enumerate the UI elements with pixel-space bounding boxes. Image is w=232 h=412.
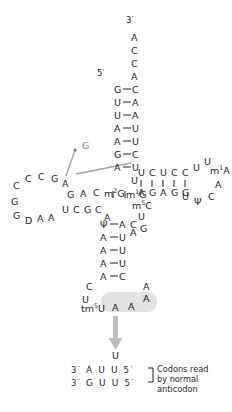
t-stem-top-base: C (171, 168, 178, 178)
t-loop-base: U (182, 192, 189, 202)
d-stem-bottom-base: G (84, 205, 91, 215)
acceptor-pair-left: G (114, 150, 121, 160)
d-loop-base: G (51, 174, 58, 184)
junction-base-u: U (131, 176, 138, 186)
anticodon-base: A (112, 303, 119, 313)
anticodon-loop-base: A (143, 294, 150, 304)
t-loop-base-m1a: m1A (210, 165, 230, 176)
anticodon-pair-left: A (100, 272, 107, 282)
codon-row-1-3prime: 3′ (71, 365, 82, 375)
down-arrow (109, 316, 123, 350)
d-stem-top-base: C (93, 188, 100, 198)
codon-caption-line: Codons read (157, 364, 208, 374)
acceptor-pair-right: C (132, 150, 139, 160)
acceptor-pair-left: U (114, 98, 121, 108)
d-loop-base: G (11, 197, 18, 207)
arrow-product-base: U (112, 351, 119, 361)
acceptor-pair-right: C (132, 85, 139, 95)
codon-row-1: 3′ A U U 5′ (71, 366, 134, 375)
anticodon-stem-extra: C (130, 220, 137, 230)
acceptor-pair-right: U (132, 137, 139, 147)
variable-loop-base-m5c: m5C (132, 200, 152, 211)
d-loop-base: C (25, 174, 32, 184)
d-stem-top-base: A (80, 189, 87, 199)
acceptor-pair-left: A (114, 124, 121, 134)
t-stem-top-base: U (160, 168, 167, 178)
acceptor-pair-left: U (114, 111, 121, 121)
codon-row-1-5prime: 5′ (124, 365, 135, 375)
d-loop-base: A (48, 213, 55, 223)
d-stem-bottom-base: C (73, 205, 80, 215)
acceptor-tail-base: C (131, 46, 138, 56)
codon-row-2-5prime: 5′ (124, 378, 135, 388)
anticodon-pair-right: U (119, 246, 126, 256)
t-loop-base: A (215, 180, 222, 190)
anticodon-pair-left: A (100, 259, 107, 269)
codon-row-2-3prime: 3′ (71, 378, 82, 388)
label-5prime-end: 5′ (97, 69, 104, 79)
codon-row-2: 3′ G U U 5′ (71, 379, 135, 388)
codon-caption-line: anticodon (157, 384, 198, 394)
t-stem-top-base: C (149, 168, 156, 178)
codon-caption-line: by normal (157, 374, 198, 384)
mutation-callout-label: G (82, 141, 89, 151)
d-loop-inner-base: G (67, 190, 74, 200)
acceptor-pair-right: U (132, 124, 139, 134)
t-stem-top-base: C (182, 168, 189, 178)
anticodon-wobble-base-tm5u: tm5U (81, 303, 105, 314)
codon-row-1-base: U (111, 365, 119, 375)
variable-loop-base: G (140, 224, 147, 234)
d-loop-base: C (13, 181, 20, 191)
d-stem-bottom-base: U (62, 205, 69, 215)
codon-row-2-base: U (99, 378, 107, 388)
t-loop-base: U (193, 163, 200, 173)
acceptor-pair-left: A (114, 137, 121, 147)
label-3prime-end: 3′ (126, 16, 133, 26)
anticodon-loop-base: C (86, 282, 93, 292)
codon-row-2-base: U (112, 378, 120, 388)
t-loop-base: Ψ (194, 197, 201, 207)
codon-row-1-base: A (86, 365, 94, 375)
d-loop-base: A (62, 179, 69, 189)
d-loop-base: C (38, 172, 45, 182)
acceptor-pair-right: A (132, 111, 139, 121)
acceptor-pair-left: G (114, 85, 121, 95)
anticodon-pair-left: A (100, 246, 107, 256)
acceptor-tail-base: A (131, 72, 138, 82)
anticodon-pair-left: A (100, 233, 107, 243)
anticodon-loop-base: A (143, 282, 150, 292)
codon-row-1-base: U (98, 365, 106, 375)
anticodon-pair-left: Ψ (100, 220, 107, 230)
d-loop-base: D (25, 216, 32, 226)
d-loop-base: G (13, 211, 20, 221)
t-stem-bottom-base: G (149, 188, 156, 198)
t-stem-bottom-base: A (138, 188, 145, 198)
acceptor-tail-base: A (131, 33, 138, 43)
t-loop-base: C (208, 192, 215, 202)
anticodon-pair-right: U (119, 259, 126, 269)
t-stem-top-base: U (138, 168, 145, 178)
t-stem-bottom-base: G (171, 188, 178, 198)
acceptor-pair-left: A (114, 163, 121, 173)
anticodon-pair-right: C (119, 272, 126, 282)
d-stem-top-base-m2g: m2G (104, 188, 125, 199)
codon-row-2-base: G (86, 378, 95, 388)
d-loop-base: A (37, 214, 44, 224)
anticodon-pair-right: U (119, 233, 126, 243)
trna-diagram: 3′ 5′ A C C A G C U A U A A U A U G C A … (0, 0, 232, 412)
d-stem-bottom-base: C (95, 205, 102, 215)
t-stem-bottom-base: A (160, 188, 167, 198)
anticodon-pair-right: A (119, 220, 126, 230)
acceptor-tail-base: C (131, 59, 138, 69)
acceptor-pair-right: A (132, 98, 139, 108)
anticodon-base: A (128, 302, 135, 312)
variable-loop-base: U (138, 212, 145, 222)
